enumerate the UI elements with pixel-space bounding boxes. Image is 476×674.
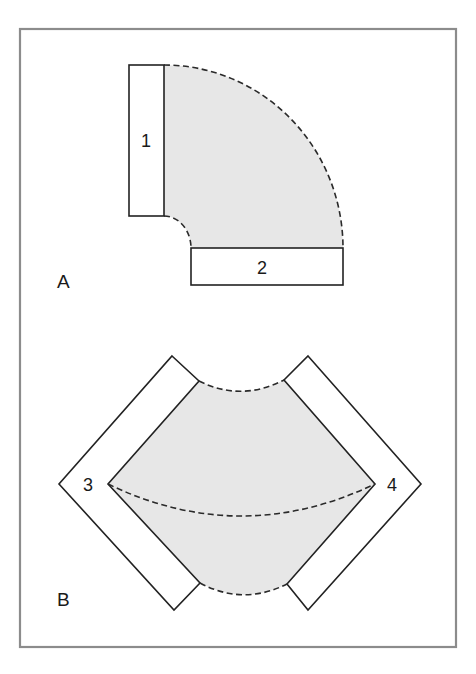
panel-b-label: B xyxy=(57,589,70,610)
panel-b: 3 4 B xyxy=(57,356,421,610)
part-3-label: 3 xyxy=(83,475,93,495)
panel-a-label: A xyxy=(57,271,70,292)
panel-a: 1 2 A xyxy=(57,65,343,292)
part-2-label: 2 xyxy=(257,258,267,278)
diagram-figure: 1 2 A 3 4 B xyxy=(0,0,476,674)
part-1-label: 1 xyxy=(141,131,151,151)
part-4-label: 4 xyxy=(387,475,397,495)
panel-a-bend-shading xyxy=(164,65,343,248)
